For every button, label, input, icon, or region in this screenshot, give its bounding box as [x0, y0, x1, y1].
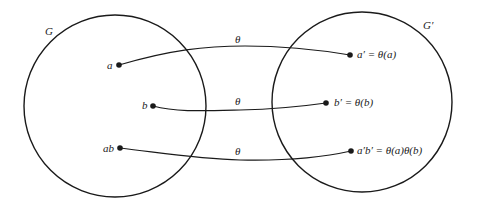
point-ab — [117, 145, 123, 151]
target-label-ab-prime: a′b′ = θ(a)θ(b) — [357, 145, 422, 156]
point-a-prime — [347, 52, 353, 58]
point-b — [150, 103, 156, 109]
arrow-label-theta-ab: θ — [235, 146, 240, 157]
group-g-circle — [24, 15, 206, 197]
target-label-a-prime: a′ = θ(a) — [357, 49, 396, 60]
group-g-prime-label: G′ — [423, 20, 433, 31]
target-label-b-prime: b′ = θ(b) — [334, 97, 373, 108]
point-a — [116, 62, 122, 68]
group-g-label: G — [45, 26, 53, 37]
point-b-prime — [323, 100, 329, 106]
arrow-label-theta-a: θ — [235, 34, 240, 45]
source-label-b: b — [142, 100, 148, 111]
mapping-curve-a — [119, 46, 350, 65]
point-ab-prime — [348, 148, 354, 154]
source-label-ab: ab — [103, 143, 114, 154]
arrow-label-theta-b: θ — [235, 96, 240, 107]
source-label-a: a — [107, 60, 113, 71]
